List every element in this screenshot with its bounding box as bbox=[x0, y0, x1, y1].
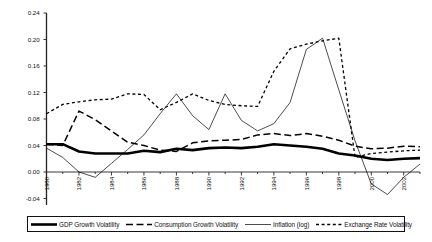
legend-swatch-0 bbox=[31, 220, 57, 229]
y-axis-tick-label: 0.24 bbox=[14, 9, 40, 16]
legend-item: GDP Growth Volatility bbox=[31, 220, 119, 229]
legend-swatch-1 bbox=[126, 220, 152, 229]
series-line-1 bbox=[47, 111, 421, 151]
legend-label: Consumption Growth Volatility bbox=[154, 221, 238, 228]
x-axis-tick-label: 1992 bbox=[238, 177, 245, 190]
x-axis-tick-label: 1984 bbox=[108, 177, 115, 190]
x-axis-tick-label: 1990 bbox=[205, 177, 212, 190]
x-axis-tick-label: 2002 bbox=[400, 177, 407, 190]
x-axis-tick-label: 1998 bbox=[335, 177, 342, 190]
x-axis-tick-label: 1996 bbox=[303, 177, 310, 190]
legend-label: Exchange Rate Volatility bbox=[344, 221, 412, 228]
legend-label: GDP Growth Volatility bbox=[59, 221, 119, 228]
series-line-2 bbox=[47, 38, 421, 194]
chart-legend: GDP Growth VolatilityConsumption Growth … bbox=[27, 216, 405, 232]
legend-item: Inflation (log) bbox=[245, 220, 309, 229]
y-axis-tick-label: 0.08 bbox=[14, 115, 40, 122]
y-axis-tick-label: 0.00 bbox=[14, 168, 40, 175]
legend-item: Exchange Rate Volatility bbox=[316, 220, 412, 229]
legend-item: Consumption Growth Volatility bbox=[126, 220, 238, 229]
legend-label: Inflation (log) bbox=[273, 221, 309, 228]
chart-container: -0.040.000.040.080.120.160.200.24 198019… bbox=[0, 0, 432, 242]
x-axis-tick-label: 2000 bbox=[368, 177, 375, 190]
x-axis-tick-label: 1982 bbox=[75, 177, 82, 190]
series-line-0 bbox=[47, 144, 421, 160]
x-axis-tick-label: 1988 bbox=[173, 177, 180, 190]
chart-series-group bbox=[47, 38, 421, 194]
y-axis-tick-label: -0.04 bbox=[14, 195, 40, 202]
y-axis-tick-label: 0.04 bbox=[14, 142, 40, 149]
chart-axes bbox=[44, 13, 421, 205]
legend-swatch-2 bbox=[245, 220, 271, 229]
y-axis-tick-label: 0.16 bbox=[14, 62, 40, 69]
x-axis-tick-label: 1986 bbox=[140, 177, 147, 190]
y-axis-tick-label: 0.12 bbox=[14, 89, 40, 96]
x-axis-tick-label: 1980 bbox=[43, 177, 50, 190]
x-axis-tick-label: 1994 bbox=[270, 177, 277, 190]
y-axis-tick-label: 0.20 bbox=[14, 36, 40, 43]
legend-swatch-3 bbox=[316, 220, 342, 229]
